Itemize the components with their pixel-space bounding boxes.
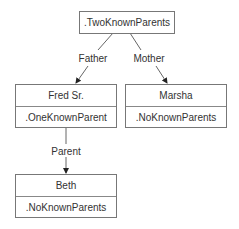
node-name: Beth	[16, 175, 116, 196]
edge-label-parent: Parent	[50, 146, 81, 157]
root-node-label: .TwoKnownParents	[80, 12, 174, 33]
node-fred: Fred Sr. .OneKnownParent	[15, 84, 117, 128]
node-type: .NoKnownParents	[126, 106, 226, 127]
node-marsha: Marsha .NoKnownParents	[125, 84, 227, 128]
node-type: .OneKnownParent	[16, 106, 116, 127]
node-type: .NoKnownParents	[16, 196, 116, 217]
node-beth: Beth .NoKnownParents	[15, 174, 117, 218]
root-node: .TwoKnownParents	[79, 11, 175, 34]
edge-label-mother: Mother	[132, 53, 165, 64]
node-name: Marsha	[126, 85, 226, 106]
node-name: Fred Sr.	[16, 85, 116, 106]
edge-label-father: Father	[78, 53, 109, 64]
